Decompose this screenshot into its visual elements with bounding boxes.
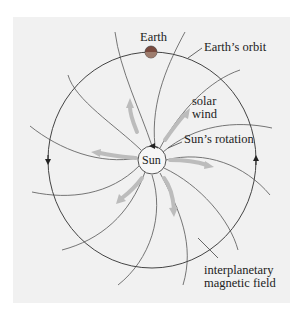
sun-label: Sun [142, 154, 161, 167]
earth-label: Earth [140, 31, 167, 44]
orbit-leader-line [188, 48, 202, 58]
earth-orbit-label: Earth’s orbit [204, 41, 266, 54]
sun-rotation-label: Sun’s rotation [184, 133, 254, 146]
imf-label-line2: magnetic field [204, 277, 276, 290]
solar-wind-label-line2: wind [192, 108, 217, 121]
